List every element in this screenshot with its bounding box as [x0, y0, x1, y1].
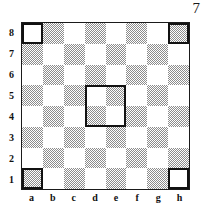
- file-label-row: abcdefgh: [21, 192, 190, 208]
- rank-label-5: 5: [4, 85, 19, 106]
- board-square-f3[interactable]: [126, 127, 147, 148]
- board-square-e5[interactable]: [106, 85, 127, 106]
- board-square-g3[interactable]: [147, 127, 168, 148]
- board-square-c6[interactable]: [64, 65, 85, 86]
- board-square-d2[interactable]: [85, 148, 106, 169]
- board-square-b3[interactable]: [43, 127, 64, 148]
- board-square-h6[interactable]: [168, 65, 189, 86]
- board-square-a6[interactable]: [22, 65, 43, 86]
- board-square-b4[interactable]: [43, 106, 64, 127]
- board-square-d1[interactable]: [85, 168, 106, 189]
- board-square-d3[interactable]: [85, 127, 106, 148]
- rank-label-3: 3: [4, 127, 19, 148]
- board-square-h5[interactable]: [168, 85, 189, 106]
- chess-board-grid: [22, 23, 189, 189]
- board-square-f5[interactable]: [126, 85, 147, 106]
- page-root: 7 87654321 abcdefgh: [0, 0, 208, 216]
- board-square-b6[interactable]: [43, 65, 64, 86]
- board-square-f4[interactable]: [126, 106, 147, 127]
- file-label-a: a: [21, 192, 42, 208]
- board-square-c8[interactable]: [64, 23, 85, 44]
- board-square-a1[interactable]: [22, 168, 43, 189]
- board-square-a5[interactable]: [22, 85, 43, 106]
- board-square-c2[interactable]: [64, 148, 85, 169]
- board-square-h8[interactable]: [168, 23, 189, 44]
- board-square-g5[interactable]: [147, 85, 168, 106]
- file-label-e: e: [106, 192, 127, 208]
- board-square-f7[interactable]: [126, 44, 147, 65]
- board-square-b7[interactable]: [43, 44, 64, 65]
- board-square-g7[interactable]: [147, 44, 168, 65]
- file-label-d: d: [84, 192, 105, 208]
- board-square-e8[interactable]: [106, 23, 127, 44]
- board-square-b1[interactable]: [43, 168, 64, 189]
- file-label-f: f: [127, 192, 148, 208]
- board-square-e7[interactable]: [106, 44, 127, 65]
- board-square-b2[interactable]: [43, 148, 64, 169]
- file-label-c: c: [63, 192, 84, 208]
- board-square-a2[interactable]: [22, 148, 43, 169]
- rank-label-column: 87654321: [4, 22, 19, 190]
- board-square-f2[interactable]: [126, 148, 147, 169]
- board-square-a3[interactable]: [22, 127, 43, 148]
- board-square-d6[interactable]: [85, 65, 106, 86]
- board-square-d4[interactable]: [85, 106, 106, 127]
- board-square-a8[interactable]: [22, 23, 43, 44]
- board-square-a4[interactable]: [22, 106, 43, 127]
- board-square-g2[interactable]: [147, 148, 168, 169]
- rank-label-4: 4: [4, 106, 19, 127]
- board-square-c3[interactable]: [64, 127, 85, 148]
- file-label-g: g: [148, 192, 169, 208]
- file-label-h: h: [169, 192, 190, 208]
- rank-label-6: 6: [4, 64, 19, 85]
- board-square-h4[interactable]: [168, 106, 189, 127]
- board-square-e1[interactable]: [106, 168, 127, 189]
- board-square-h7[interactable]: [168, 44, 189, 65]
- board-square-b5[interactable]: [43, 85, 64, 106]
- board-square-c4[interactable]: [64, 106, 85, 127]
- board-square-g4[interactable]: [147, 106, 168, 127]
- board-square-f1[interactable]: [126, 168, 147, 189]
- board-square-d5[interactable]: [85, 85, 106, 106]
- board-square-g6[interactable]: [147, 65, 168, 86]
- page-number: 7: [193, 1, 201, 16]
- board-square-a7[interactable]: [22, 44, 43, 65]
- board-square-c1[interactable]: [64, 168, 85, 189]
- rank-label-1: 1: [4, 169, 19, 190]
- board-square-h2[interactable]: [168, 148, 189, 169]
- board-square-g8[interactable]: [147, 23, 168, 44]
- board-square-d8[interactable]: [85, 23, 106, 44]
- board-square-f6[interactable]: [126, 65, 147, 86]
- board-square-h1[interactable]: [168, 168, 189, 189]
- board-square-g1[interactable]: [147, 168, 168, 189]
- rank-label-2: 2: [4, 148, 19, 169]
- board-square-e6[interactable]: [106, 65, 127, 86]
- board-square-c7[interactable]: [64, 44, 85, 65]
- board-square-f8[interactable]: [126, 23, 147, 44]
- board-square-e4[interactable]: [106, 106, 127, 127]
- board-square-c5[interactable]: [64, 85, 85, 106]
- chess-board: [21, 22, 190, 190]
- rank-label-8: 8: [4, 22, 19, 43]
- board-square-h3[interactable]: [168, 127, 189, 148]
- board-square-e2[interactable]: [106, 148, 127, 169]
- board-square-d7[interactable]: [85, 44, 106, 65]
- board-square-e3[interactable]: [106, 127, 127, 148]
- file-label-b: b: [42, 192, 63, 208]
- board-square-b8[interactable]: [43, 23, 64, 44]
- rank-label-7: 7: [4, 43, 19, 64]
